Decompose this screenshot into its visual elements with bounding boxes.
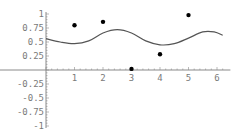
axes: 12345610.750.50.25-0.25-0.5-0.75-1: [0, 9, 230, 131]
y-tick-label: -0.5: [22, 93, 44, 103]
data-point: [101, 20, 105, 24]
data-points: [72, 13, 190, 71]
y-tick-label: 1: [39, 9, 44, 19]
x-tick-label: 1: [72, 73, 77, 83]
x-tick-label: 6: [214, 73, 219, 83]
x-tick-label: 3: [129, 73, 134, 83]
data-point: [72, 23, 76, 27]
data-point: [158, 52, 162, 56]
y-tick-label: 0.25: [22, 51, 44, 61]
y-tick-label: -0.75: [17, 107, 44, 117]
curve-line: [46, 30, 223, 45]
chart: 12345610.750.50.25-0.25-0.5-0.75-1: [0, 0, 239, 140]
y-tick-label: -0.25: [17, 79, 44, 89]
data-point: [186, 13, 190, 17]
data-point: [129, 67, 133, 71]
y-tick-label: 0.5: [28, 37, 44, 47]
y-tick-label: 0.75: [22, 23, 44, 33]
y-tick-label: -1: [33, 121, 44, 131]
x-tick-label: 4: [157, 73, 162, 83]
x-tick-label: 5: [186, 73, 191, 83]
x-tick-label: 2: [100, 73, 105, 83]
fit-curve: [46, 30, 223, 45]
